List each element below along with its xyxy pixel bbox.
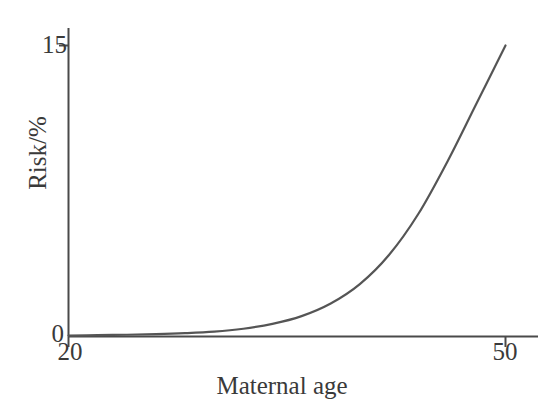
risk-vs-maternal-age-chart: 15 0 20 50 Risk/% Maternal age bbox=[0, 0, 554, 420]
risk-curve-line bbox=[69, 46, 506, 336]
x-axis-tick-label-50: 50 bbox=[487, 338, 523, 366]
y-axis-tick-label-15: 15 bbox=[42, 31, 67, 59]
x-axis-tick-label-20: 20 bbox=[52, 338, 88, 366]
x-axis-title: Maternal age bbox=[177, 372, 387, 400]
y-axis-title: Risk/% bbox=[25, 93, 51, 213]
